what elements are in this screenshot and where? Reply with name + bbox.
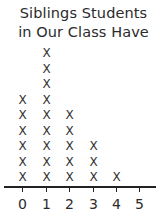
axis-tick (116, 188, 117, 192)
x-marker: X (88, 156, 100, 168)
x-marker: X (64, 171, 76, 183)
x-marker: X (88, 140, 100, 152)
x-marker: X (17, 140, 29, 152)
axis-tick-label: 3 (86, 196, 102, 212)
axis-tick-label: 1 (39, 196, 55, 212)
x-marker: X (41, 47, 53, 59)
x-marker: X (41, 125, 53, 137)
x-marker: X (17, 171, 29, 183)
x-marker: X (111, 171, 123, 183)
axis-tick (93, 188, 94, 192)
x-marker: X (64, 109, 76, 121)
axis-tick-label: 0 (15, 196, 31, 212)
axis-tick (139, 188, 140, 192)
x-marker: X (17, 109, 29, 121)
x-marker: X (41, 63, 53, 75)
x-marker: X (64, 140, 76, 152)
x-marker: X (41, 156, 53, 168)
axis-tick (46, 188, 47, 192)
x-marker: X (64, 125, 76, 137)
axis-tick (22, 188, 23, 192)
axis-tick-label: 5 (132, 196, 148, 212)
x-marker: X (17, 94, 29, 106)
axis-tick-label: 2 (62, 196, 78, 212)
number-line-axis (4, 186, 156, 188)
x-marker: X (41, 94, 53, 106)
x-marker: X (88, 171, 100, 183)
x-marker: X (41, 171, 53, 183)
x-marker: X (41, 78, 53, 90)
x-marker: X (17, 125, 29, 137)
x-marker: X (17, 156, 29, 168)
x-marker: X (41, 109, 53, 121)
axis-tick (69, 188, 70, 192)
x-marker: X (41, 140, 53, 152)
dot-plot: 0XXXXXX1XXXXXXXXX2XXXXX3XXX4X5 (0, 0, 167, 219)
axis-tick-label: 4 (109, 196, 125, 212)
x-marker: X (64, 156, 76, 168)
